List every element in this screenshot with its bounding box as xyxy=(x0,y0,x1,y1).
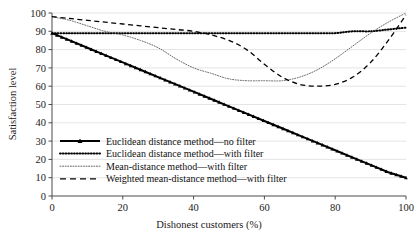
x-tick-label: 60 xyxy=(259,202,270,213)
x-tick-label: 40 xyxy=(188,202,199,213)
x-tick-label: 80 xyxy=(330,202,341,213)
legend-label-1: Euclidean distance method—with filter xyxy=(106,148,264,159)
legend-label-0: Euclidean distance method—no filter xyxy=(106,136,256,147)
satisfaction-line-chart: 0102030405060708090100 020406080100 Dish… xyxy=(0,0,418,240)
y-tick-label: 50 xyxy=(36,99,47,110)
x-axis-tick-labels: 020406080100 xyxy=(49,202,414,213)
x-tick-label: 20 xyxy=(118,202,129,213)
chart-container: 0102030405060708090100 020406080100 Dish… xyxy=(0,0,418,240)
x-tick-label: 100 xyxy=(398,202,414,213)
y-tick-label: 20 xyxy=(36,154,47,165)
x-tick-label: 0 xyxy=(49,202,54,213)
y-axis-title: Satisfaction level xyxy=(7,68,18,141)
y-tick-label: 0 xyxy=(41,191,46,202)
y-tick-label: 80 xyxy=(36,44,47,55)
legend-label-2: Mean-distance method—with filter xyxy=(106,161,248,172)
legend-label-3: Weighted mean-distance method—with filte… xyxy=(106,173,287,184)
y-tick-label: 30 xyxy=(36,136,47,147)
y-axis-tick-labels: 0102030405060708090100 xyxy=(30,8,46,202)
y-tick-label: 90 xyxy=(36,26,47,37)
y-tick-label: 100 xyxy=(30,8,46,19)
y-tick-label: 70 xyxy=(36,63,47,74)
y-tick-label: 40 xyxy=(36,117,47,128)
x-axis-title: Dishonest customers (%) xyxy=(156,219,262,231)
y-tick-label: 10 xyxy=(36,172,47,183)
y-axis-ticks xyxy=(49,13,53,196)
y-tick-label: 60 xyxy=(36,81,47,92)
x-axis-ticks xyxy=(52,196,406,200)
